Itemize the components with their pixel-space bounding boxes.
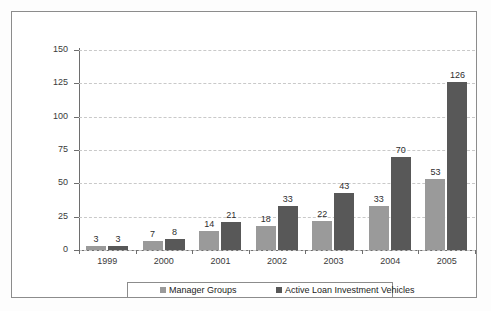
y-axis-tick-mark (74, 183, 79, 184)
bar-group: 33 (79, 50, 136, 250)
bar-group: 3370 (362, 50, 419, 250)
bar: 33 (369, 206, 389, 250)
bar-value-label: 53 (430, 168, 440, 177)
bar-group: 53126 (418, 50, 475, 250)
x-axis-tick-label: 2004 (362, 257, 418, 266)
x-axis-tick-mark (362, 250, 363, 254)
bar: 33 (278, 206, 298, 250)
bar-value-label: 7 (150, 230, 155, 239)
x-axis-tick-mark (475, 250, 476, 254)
y-axis-tick-label: 50 (34, 178, 68, 187)
y-axis-tick-label: 150 (34, 45, 68, 54)
bar-value-label: 126 (450, 71, 465, 80)
chart-legend: Manager GroupsActive Loan Investment Veh… (127, 282, 393, 298)
x-axis-tick-mark (305, 250, 306, 254)
bar: 14 (199, 231, 219, 250)
bar-value-label: 70 (396, 146, 406, 155)
x-axis-tick-label: 2000 (136, 257, 192, 266)
bar: 126 (447, 82, 467, 250)
legend-label: Manager Groups (169, 285, 237, 295)
bar: 18 (256, 226, 276, 250)
bar-group: 78 (136, 50, 193, 250)
y-axis-tick-mark (74, 83, 79, 84)
y-axis-tick-label: 25 (34, 212, 68, 221)
bar: 8 (165, 239, 185, 250)
chart-figure: 3378142118332243337053126 Manager Groups… (0, 0, 491, 311)
bar-value-label: 21 (226, 211, 236, 220)
y-axis-tick-mark (74, 217, 79, 218)
bar-value-label: 8 (172, 228, 177, 237)
bar: 21 (221, 222, 241, 250)
bar-value-label: 33 (283, 195, 293, 204)
bar-group: 2243 (305, 50, 362, 250)
bar: 7 (143, 241, 163, 250)
y-axis-tick-label: 0 (34, 245, 68, 254)
plot-area: 3378142118332243337053126 (79, 50, 475, 250)
x-axis-tick-mark (192, 250, 193, 254)
bar-value-label: 18 (261, 215, 271, 224)
y-axis-tick-mark (74, 150, 79, 151)
bar-value-label: 14 (204, 220, 214, 229)
legend-entry: Manager Groups (160, 283, 237, 297)
legend-swatch-icon (160, 287, 166, 293)
bar: 70 (391, 157, 411, 250)
bar: 53 (425, 179, 445, 250)
x-axis-tick-mark (136, 250, 137, 254)
bar-value-label: 43 (339, 182, 349, 191)
chart-frame: 3378142118332243337053126 Manager Groups… (11, 11, 477, 298)
bar: 43 (334, 193, 354, 250)
bar-value-label: 3 (115, 235, 120, 244)
y-axis-tick-label: 75 (34, 145, 68, 154)
bar: 3 (108, 246, 128, 250)
y-axis-tick-label: 125 (34, 78, 68, 87)
x-axis-tick-label: 2002 (249, 257, 305, 266)
x-axis-tick-label: 2001 (192, 257, 248, 266)
bar-value-label: 33 (374, 195, 384, 204)
bar-value-label: 22 (317, 210, 327, 219)
y-axis-tick-mark (74, 117, 79, 118)
x-axis-tick-label: 2005 (419, 257, 475, 266)
bar-group: 1833 (249, 50, 306, 250)
x-axis-tick-mark (79, 250, 80, 254)
gridline (79, 250, 475, 251)
y-axis-tick-label: 100 (34, 112, 68, 121)
x-axis-tick-label: 1999 (79, 257, 135, 266)
y-axis-tick-mark (74, 50, 79, 51)
x-axis-tick-mark (249, 250, 250, 254)
bar-value-label: 3 (93, 235, 98, 244)
bar: 22 (312, 221, 332, 250)
legend-label: Active Loan Investment Vehicles (285, 285, 415, 295)
bar-group: 1421 (192, 50, 249, 250)
x-axis-tick-label: 2003 (306, 257, 362, 266)
legend-swatch-icon (276, 287, 282, 293)
x-axis-tick-mark (418, 250, 419, 254)
bar: 3 (86, 246, 106, 250)
legend-entry: Active Loan Investment Vehicles (276, 283, 415, 297)
